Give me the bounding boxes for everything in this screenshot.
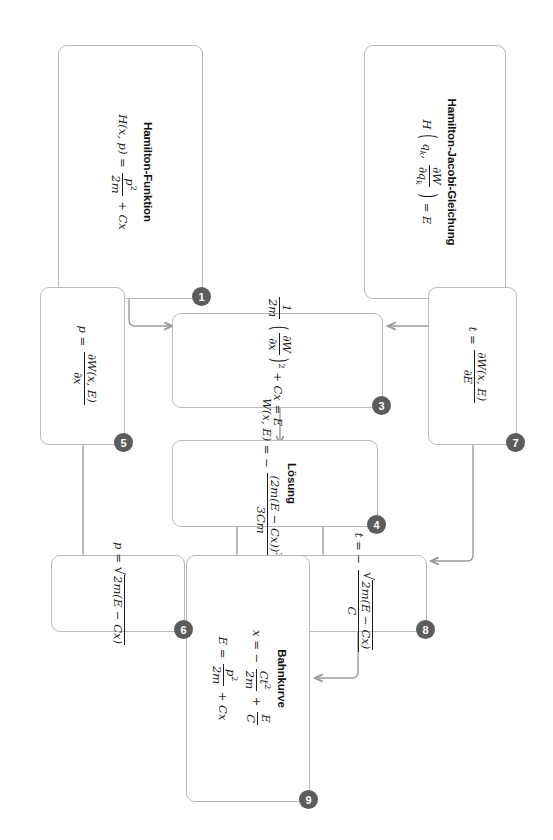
node-title-9: Bahnkurve — [276, 649, 288, 708]
step-badge-8: 8 — [416, 620, 435, 639]
node-formula-6: p = √2m(E − Cx) — [110, 542, 125, 645]
diagram-canvas: 2 Hamilton-Jacobi-Gleichung H ( qk, ∂W∂q… — [0, 0, 553, 840]
step-badge-5: 5 — [114, 433, 133, 452]
node-momentum-solution[interactable]: 6 p = √2m(E − Cx) — [51, 555, 185, 632]
node-title-1: Hamilton-Funktion — [142, 122, 154, 222]
step-badge-9: 9 — [299, 790, 318, 809]
node-title-4: Lösung — [286, 463, 298, 504]
edge-n7-n8 — [431, 445, 473, 561]
node-formula-7: t = ∂W(x, E)∂E — [459, 327, 486, 406]
step-badge-1: 1 — [192, 287, 211, 306]
node-formula-5: p = ∂W(x, E)∂x — [69, 325, 96, 406]
node-title-2: Hamilton-Jacobi-Gleichung — [446, 98, 458, 245]
node-formula-1: H(x, p) = p22m + Cx — [107, 114, 136, 230]
node-formula-4: W(x, E) = − (2m(E − Cx))3/23Cm — [252, 398, 281, 569]
node-formula-2: H ( qk, ∂W∂qk ) = E — [412, 120, 442, 225]
step-badge-3: 3 — [372, 396, 391, 415]
edge-n1-n3 — [129, 299, 172, 326]
node-bahnkurve[interactable]: 9 Bahnkurve x = − Ct22m + EC E = p22m + … — [186, 555, 310, 802]
node-formula-9a: x = − Ct22m + EC — [242, 630, 271, 727]
step-badge-6: 6 — [174, 620, 193, 639]
node-formula-8: t = − √2m(E − Cx)C — [343, 533, 372, 654]
node-hamilton-funktion[interactable]: 1 Hamilton-Funktion H(x, p) = p22m + Cx — [58, 45, 203, 299]
node-time-from-w[interactable]: 7 t = ∂W(x, E)∂E — [428, 287, 517, 445]
node-hj-equation-expanded[interactable]: 3 12m (∂W∂x)2 + Cx = E — [172, 313, 383, 408]
step-badge-4: 4 — [367, 515, 386, 534]
node-momentum-from-w[interactable]: 5 p = ∂W(x, E)∂x — [40, 287, 125, 445]
node-formula-9b: E = p22m + Cx — [208, 637, 237, 721]
node-loesung[interactable]: 4 Lösung W(x, E) = − (2m(E − Cx))3/23Cm — [172, 440, 378, 527]
step-badge-7: 7 — [506, 433, 525, 452]
node-hamilton-jacobi-gleichung[interactable]: 2 Hamilton-Jacobi-Gleichung H ( qk, ∂W∂q… — [364, 45, 506, 299]
